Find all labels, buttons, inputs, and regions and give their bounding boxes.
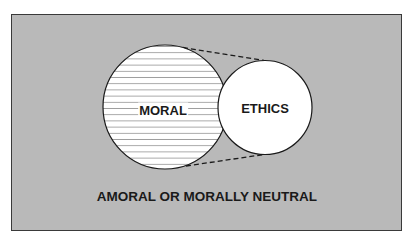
ethics-label: ETHICS (241, 101, 289, 116)
amoral-region-label: AMORAL OR MORALLY NEUTRAL (0, 189, 414, 204)
moral-label: MORAL (138, 103, 188, 118)
moral-ethics-diagram (0, 0, 414, 245)
